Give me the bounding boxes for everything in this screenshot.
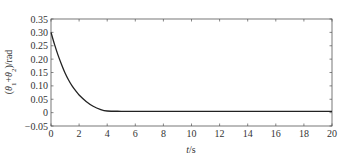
y-tick-label: 0.05 [31,94,49,105]
x-tick-label: 2 [77,128,82,139]
y-axis-label: (θ1+θ2)/rad [3,50,18,95]
x-tick-label: 20 [327,128,337,139]
x-axis-label: t/s [186,144,196,155]
series-line [51,32,332,111]
x-tick-label: 8 [161,128,166,139]
series-layer [51,32,332,111]
x-tick-label: 14 [243,128,253,139]
y-tick-label: 0.10 [31,80,49,91]
plot-border [51,19,332,126]
x-tick-label: 6 [133,128,138,139]
y-tick-label: 0 [43,107,48,118]
x-tick-label: 0 [49,128,54,139]
chart-canvas: 02468101214161820 −0.0500.050.100.150.20… [0,0,351,157]
y-tick-label: 0.15 [31,67,49,78]
x-tick-label: 16 [271,128,281,139]
x-tick-label: 4 [105,128,110,139]
y-tick-label: 0.20 [31,54,49,65]
y-tick-label: −0.05 [25,121,48,132]
x-axis-ticks: 02468101214161820 [49,19,338,139]
x-tick-label: 10 [187,128,197,139]
y-tick-label: 0.30 [31,27,49,38]
x-tick-label: 18 [299,128,309,139]
y-tick-label: 0.35 [31,14,49,25]
y-tick-label: 0.25 [31,40,49,51]
x-tick-label: 12 [215,128,225,139]
plot-frame [51,19,332,126]
y-axis-ticks: −0.0500.050.100.150.200.250.300.35 [25,14,332,132]
